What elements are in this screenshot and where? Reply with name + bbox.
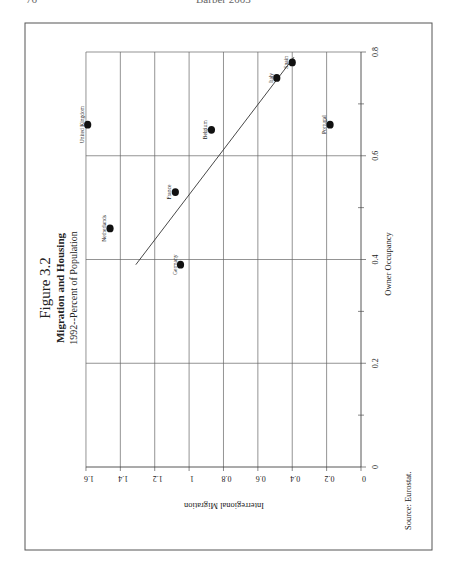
scatter-chart: 00.20.40.60.811.21.41.600.20.40.60.8 Uni… — [0, 0, 454, 575]
point-label: Portugal — [321, 115, 327, 134]
figure-title: Figure 3.2 — [37, 257, 53, 319]
y-tick-label: 0.4 — [290, 474, 300, 483]
x-tick-label: 0.4 — [371, 255, 380, 265]
point-label: United Kingdom — [79, 105, 85, 143]
point-label: Netherlands — [101, 215, 107, 242]
data-points: United KingdomNetherlandsFranceGermanyBe… — [79, 56, 334, 275]
data-point — [326, 121, 333, 129]
x-tick-label: 0.6 — [371, 151, 380, 161]
data-point — [273, 74, 280, 82]
data-point — [289, 58, 296, 66]
x-tick-label: 0.8 — [371, 47, 380, 57]
point-label: Germany — [172, 254, 178, 275]
y-tick-label: 1.2 — [153, 474, 163, 483]
y-tick-label: 0.8 — [221, 474, 231, 483]
grid — [86, 52, 361, 467]
regression-line — [136, 57, 294, 265]
point-label: Spain — [283, 56, 289, 69]
x-tick-label: 0 — [371, 465, 380, 469]
y-tick-label: 1.4 — [118, 474, 128, 483]
source-note: Source: Eurostat. — [403, 471, 413, 530]
y-tick-label: 0.2 — [325, 474, 335, 483]
data-point — [84, 121, 91, 129]
data-point — [172, 188, 179, 196]
y-axis-title: Interregional Migration — [183, 501, 264, 511]
y-tick-label: 0.6 — [256, 474, 266, 483]
figure-subtitle: Migration and Housing — [54, 232, 66, 343]
y-tick-label: 1.6 — [84, 474, 94, 483]
figure: 00.20.40.60.811.21.41.600.20.40.60.8 Uni… — [0, 0, 454, 575]
data-point — [208, 126, 215, 134]
x-axis-title: Owner Occupancy — [383, 232, 393, 296]
point-label: France — [166, 184, 172, 200]
point-label: Belgium — [202, 120, 208, 140]
x-tick-label: 0.2 — [371, 358, 380, 368]
y-tick-label: 0 — [362, 474, 366, 483]
figure-subsubtitle: 1992--Percent of Population — [68, 231, 79, 344]
data-point — [177, 261, 184, 269]
y-tick-label: 1 — [190, 474, 194, 483]
axes: 00.20.40.60.811.21.41.600.20.40.60.8 — [84, 47, 380, 483]
point-label: Italy — [268, 73, 274, 83]
trend-line — [136, 57, 294, 265]
data-point — [106, 224, 113, 232]
